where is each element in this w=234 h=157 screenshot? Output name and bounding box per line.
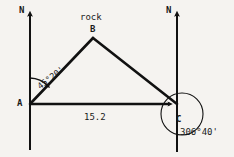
- north-label-right: N: [166, 6, 171, 15]
- point-label-a: A: [17, 99, 22, 108]
- point-label-b: B: [90, 25, 95, 34]
- bearing-label-at-c: 306°40': [180, 128, 218, 137]
- segment-bc: [93, 38, 177, 104]
- distance-label-ac: 15.2: [84, 113, 106, 122]
- north-label-left: N: [19, 6, 24, 15]
- diagram-canvas: N N rock B A C 45°20' 15.2 306°40': [0, 0, 234, 157]
- point-label-c: C: [176, 115, 181, 124]
- rock-label: rock: [80, 13, 102, 22]
